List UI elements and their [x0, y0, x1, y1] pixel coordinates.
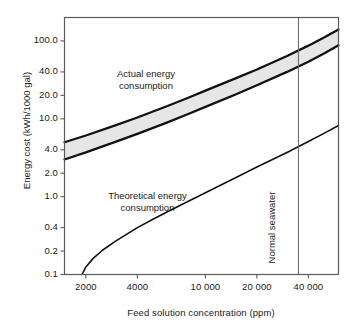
- x-tick-label: 4000: [107, 281, 167, 292]
- y-tick-label: 0.1: [10, 268, 58, 279]
- x-axis-title: Feed solution concentration (ppm): [64, 307, 338, 318]
- y-tick-label: 2.0: [10, 167, 58, 178]
- actual-energy-annotation-line1: Actual energy: [117, 68, 175, 79]
- theoretical-energy-annotation-line1: Theoretical energy: [108, 190, 187, 201]
- y-tick-label: 0.4: [10, 221, 58, 232]
- x-tick-label: 40 000: [278, 281, 338, 292]
- actual-energy-annotation-line2: consumption: [119, 80, 173, 91]
- chart-figure: 100.040.020.010.04.02.01.00.40.20.1 2000…: [0, 0, 356, 328]
- y-tick-label: 20.0: [10, 89, 58, 100]
- y-tick-label: 40.0: [10, 65, 58, 76]
- y-tick-label: 0.2: [10, 245, 58, 256]
- y-tick-label: 100.0: [10, 34, 58, 45]
- y-tick-label: 1.0: [10, 190, 58, 201]
- y-tick-label: 4.0: [10, 143, 58, 154]
- y-tick-label: 10.0: [10, 112, 58, 123]
- theoretical-energy-annotation: Theoretical energy consumption: [80, 190, 215, 213]
- normal-seawater-label: Normal seawater: [266, 173, 277, 283]
- actual-energy-annotation: Actual energy consumption: [86, 68, 206, 91]
- y-axis-title: Energy cost (kWh/1000 gal): [21, 56, 32, 206]
- actual-energy-band: [65, 30, 339, 160]
- theoretical-energy-annotation-line2: consumption: [121, 202, 175, 213]
